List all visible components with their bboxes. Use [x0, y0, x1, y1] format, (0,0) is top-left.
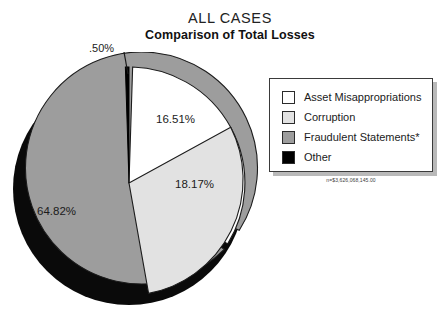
slice-label-other: .50%: [89, 42, 114, 54]
pie-chart: [0, 52, 262, 314]
legend-swatch-icon: [282, 151, 295, 164]
slice-label-asset-misappropriations: 16.51%: [156, 113, 195, 125]
legend-item-fraudulent-statements: Fraudulent Statements*: [282, 128, 432, 147]
legend-item-corruption: Corruption: [282, 108, 432, 127]
legend-item-label: Asset Misappropriations: [304, 91, 421, 104]
legend-item-other: Other: [282, 148, 432, 167]
legend-item-label: Fraudulent Statements*: [304, 131, 420, 144]
legend-swatch-icon: [282, 91, 295, 104]
slice-label-corruption: 18.17%: [175, 178, 214, 190]
legend-swatch-icon: [282, 111, 295, 124]
slice-label-fraudulent-statements: 64.82%: [37, 205, 76, 217]
legend-swatch-icon: [282, 131, 295, 144]
legend-item-asset-misappropriations: Asset Misappropriations: [282, 88, 432, 107]
pie-chart-svg: [0, 52, 262, 314]
page-subtitle: Comparison of Total Losses: [120, 28, 340, 42]
legend-item-label: Corruption: [304, 111, 355, 124]
total-losses-footnote: n=$3,626,068,145.00: [269, 177, 433, 183]
legend: Asset Misappropriations Corruption Fraud…: [269, 78, 433, 172]
chart-page: ALL CASES Comparison of Total Losses 16.…: [0, 0, 444, 329]
legend-item-label: Other: [304, 151, 332, 164]
page-title: ALL CASES: [120, 10, 340, 26]
